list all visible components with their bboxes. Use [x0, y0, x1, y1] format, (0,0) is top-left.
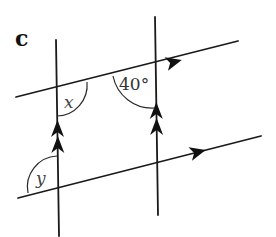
right-vertical-line	[155, 17, 158, 215]
angle-x-label: x	[64, 92, 74, 112]
angle-y-label: y	[35, 168, 46, 188]
parallel-lines-diagram: c x 40° y	[0, 0, 276, 237]
right-vertical-double-arrow-icon	[150, 102, 163, 135]
left-vertical-double-arrow-icon	[51, 120, 64, 153]
angle-40-label: 40°	[119, 74, 149, 94]
part-label: c	[15, 25, 28, 51]
bottom-line-arrow-icon	[189, 143, 208, 161]
